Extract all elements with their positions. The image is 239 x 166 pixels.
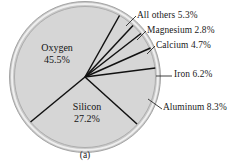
callout-label-aluminum: Aluminum 8.3% xyxy=(163,103,227,113)
slice-label-oxygen: Oxygen 45.5% xyxy=(26,42,88,65)
slice-label-silicon-percent: 27.2% xyxy=(56,113,118,125)
callout-label-calcium: Calcium 4.7% xyxy=(156,41,211,51)
callout-label-magnesium: Magnesium 2.8% xyxy=(147,26,215,36)
figure-caption: (a) xyxy=(0,150,170,160)
slice-label-silicon: Silicon 27.2% xyxy=(56,101,118,124)
slice-label-oxygen-name: Oxygen xyxy=(26,42,88,54)
slice-label-oxygen-percent: 45.5% xyxy=(26,54,88,66)
callout-label-iron: Iron 6.2% xyxy=(174,70,212,80)
pie-chart-figure: All others 5.3% Magnesium 2.8% Calcium 4… xyxy=(0,0,239,166)
callout-label-all-others: All others 5.3% xyxy=(137,11,198,21)
slice-label-silicon-name: Silicon xyxy=(56,101,118,113)
